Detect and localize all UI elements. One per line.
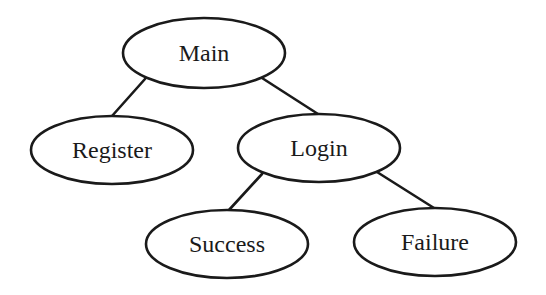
edge-main-login <box>262 78 318 114</box>
node-register-label: Register <box>72 137 152 163</box>
edge-login-failure <box>377 172 434 208</box>
node-login-label: Login <box>290 135 347 161</box>
tree-diagram: Main Register Login Success Failure <box>0 0 546 295</box>
node-register: Register <box>31 116 193 184</box>
edge-main-register <box>112 79 145 116</box>
node-failure: Failure <box>354 208 516 276</box>
node-login: Login <box>238 114 400 182</box>
nodes-group: Main Register Login Success Failure <box>31 18 516 278</box>
node-success: Success <box>146 210 308 278</box>
node-main: Main <box>123 18 285 88</box>
node-failure-label: Failure <box>401 229 469 255</box>
edge-login-success <box>229 174 262 210</box>
node-main-label: Main <box>179 40 230 66</box>
node-success-label: Success <box>189 231 265 257</box>
